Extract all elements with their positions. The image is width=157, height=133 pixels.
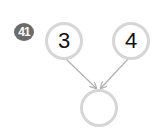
number-right: 4 — [125, 28, 137, 54]
number-circle-right: 4 — [112, 22, 150, 60]
answer-circle-empty[interactable] — [80, 89, 118, 127]
number-circle-left: 3 — [45, 22, 83, 60]
arrow-left-to-bottom — [66, 59, 96, 88]
arrows — [0, 0, 157, 133]
arrow-right-to-bottom — [101, 59, 128, 88]
number-left: 3 — [58, 28, 70, 54]
